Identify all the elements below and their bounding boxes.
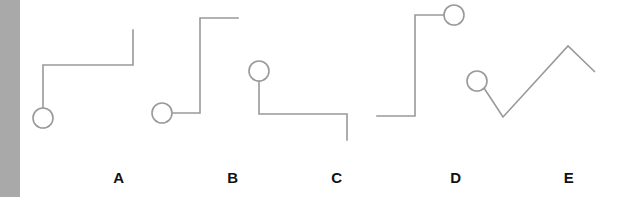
shape-label-e: E: [554, 170, 584, 185]
shape-label-b: B: [218, 170, 248, 185]
figure-stage: A B C D E: [0, 0, 627, 197]
shape-e-polyline: [484, 46, 595, 117]
shape-c-circle-marker: [249, 61, 269, 81]
shape-c-polyline: [259, 81, 347, 140]
shape-a-polyline: [43, 30, 133, 108]
shape-d-polyline: [377, 15, 444, 116]
shape-e-path: [467, 46, 595, 117]
shape-a-path: [33, 30, 133, 128]
shape-label-a: A: [104, 170, 134, 185]
shape-label-c: C: [322, 170, 352, 185]
shape-d-circle-marker: [444, 5, 464, 25]
shape-a-circle-marker: [33, 108, 53, 128]
shape-d-path: [377, 5, 464, 116]
shape-b-circle-marker: [152, 103, 172, 123]
shape-b-polyline: [172, 18, 238, 113]
figure-canvas: [0, 0, 627, 197]
shape-label-d: D: [441, 170, 471, 185]
shape-b-path: [152, 18, 238, 123]
shape-c-path: [249, 61, 347, 140]
shape-e-circle-marker: [467, 71, 487, 91]
